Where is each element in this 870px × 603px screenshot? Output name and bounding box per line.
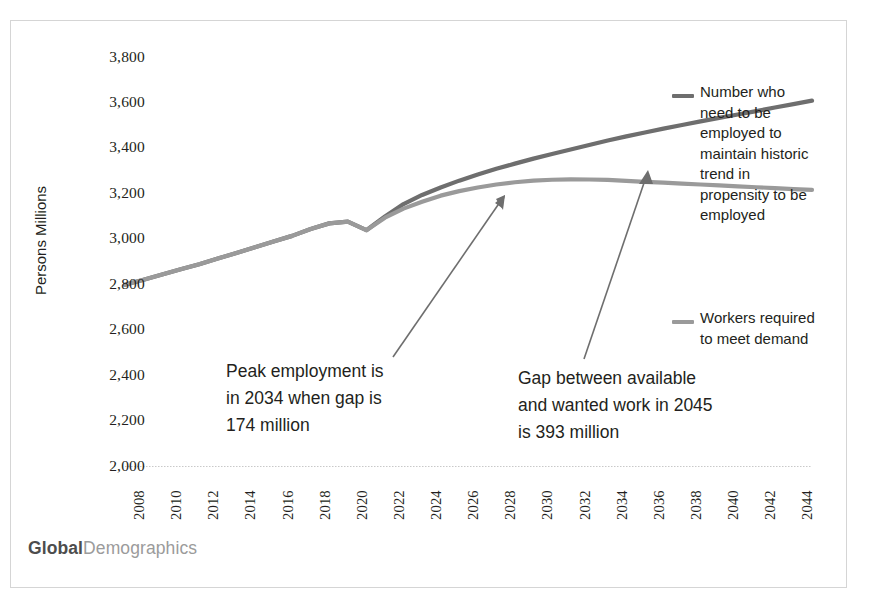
annotation-peak-employment: Peak employment isin 2034 when gap is174… [226, 358, 486, 439]
legend-line: propensity to be [700, 185, 865, 206]
legend-line: Number who [700, 82, 865, 103]
legend-swatch-legend-workers-required [672, 320, 694, 324]
brand-bold-part: Global [28, 538, 83, 558]
x-axis-tick-2018: 2018 [317, 490, 334, 520]
x-axis-tick-2038: 2038 [688, 490, 705, 520]
x-axis-tick-2036: 2036 [651, 490, 668, 520]
x-axis-tick-2020: 2020 [354, 490, 371, 520]
x-axis-tick-2028: 2028 [502, 490, 519, 520]
legend-line: need to be [700, 103, 865, 124]
legend-line: maintain historic [700, 144, 865, 165]
x-axis-tick-2030: 2030 [539, 490, 556, 520]
legend-label-legend-need-employed: Number whoneed to beemployed tomaintain … [700, 82, 865, 226]
x-axis-tick-2026: 2026 [465, 490, 482, 520]
annotation-line: and wanted work in 2045 [518, 392, 808, 419]
x-axis-tick-2040: 2040 [725, 490, 742, 520]
legend-line: trend in [700, 164, 865, 185]
x-axis-tick-2044: 2044 [799, 490, 816, 520]
x-axis-tick-2022: 2022 [391, 490, 408, 520]
legend-swatch-legend-need-employed [672, 94, 694, 98]
legend-line: employed to [700, 123, 865, 144]
annotation-line: is 393 million [518, 419, 808, 446]
x-axis-tick-2012: 2012 [205, 490, 222, 520]
legend-label-legend-workers-required: Workers requiredto meet demand [700, 308, 865, 349]
x-axis-tick-2008: 2008 [131, 490, 148, 520]
x-axis-tick-2024: 2024 [428, 490, 445, 520]
x-axis-tick-2016: 2016 [280, 490, 297, 520]
x-axis-tick-2010: 2010 [168, 490, 185, 520]
legend-line: Workers required [700, 308, 865, 329]
x-axis-tick-2032: 2032 [577, 490, 594, 520]
chart-screenshot: 3,8003,6003,4003,2003,0002,8002,6002,400… [0, 0, 870, 603]
x-axis-tick-2042: 2042 [762, 490, 779, 520]
legend-line: to meet demand [700, 329, 865, 350]
brand-logo-text: GlobalDemographics [28, 538, 197, 559]
annotation-line: in 2034 when gap is [226, 385, 486, 412]
brand-light-part: Demographics [83, 538, 197, 558]
x-axis-tick-2014: 2014 [242, 490, 259, 520]
annotation-line: Gap between available [518, 365, 808, 392]
x-axis-tick-2034: 2034 [614, 490, 631, 520]
annotation-line: Peak employment is [226, 358, 486, 385]
annotation-line: 174 million [226, 412, 486, 439]
annotation-gap-2045: Gap between availableand wanted work in … [518, 365, 808, 446]
legend-line: employed [700, 205, 865, 226]
